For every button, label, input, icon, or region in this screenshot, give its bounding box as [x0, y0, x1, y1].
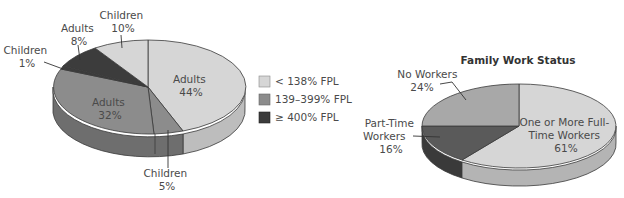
- label-adults-8: Adults 8%: [61, 22, 97, 47]
- work-status-pie-chart: Family Work Status One or More Full- Tim…: [363, 54, 616, 186]
- label-children-5: Children 5%: [143, 167, 190, 192]
- legend-label-139-399: 139–399% FPL: [275, 93, 352, 105]
- label-no-workers: No Workers 24%: [397, 68, 460, 93]
- income-pie-top: [54, 40, 246, 134]
- legend-label-ge400: ≥ 400% FPL: [275, 111, 339, 123]
- slice-no-workers: [422, 84, 519, 126]
- income-legend: < 138% FPL 139–399% FPL ≥ 400% FPL: [259, 75, 352, 123]
- legend-swatch-139-399: [259, 94, 270, 105]
- work-status-title: Family Work Status: [461, 54, 576, 66]
- legend-label-lt138: < 138% FPL: [275, 75, 339, 87]
- income-pie-chart: Adults 44% Adults 32% Children 5% Childr…: [3, 9, 245, 192]
- label-children-10: Children 10%: [99, 9, 146, 34]
- charts-canvas: Adults 44% Adults 32% Children 5% Childr…: [0, 0, 624, 198]
- label-part-time: Part-Time Workers 16%: [363, 117, 417, 155]
- leader-children-1: [44, 62, 63, 69]
- legend-swatch-ge400: [259, 112, 270, 123]
- label-children-1: Children 1%: [3, 44, 50, 69]
- legend-swatch-lt138: [259, 76, 270, 87]
